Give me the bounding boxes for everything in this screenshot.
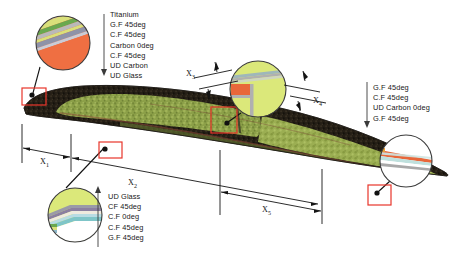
stack-item: C.F 0deg <box>108 212 144 222</box>
lower-surface-callout-circle <box>48 188 102 242</box>
dimension-x5-label: X5 <box>262 205 271 216</box>
stack-item: G.F 45deg <box>110 20 154 30</box>
trailing-edge-stack-labels: G.F 45deg C.F 45deg UD Carbon 0deg G.F 4… <box>373 83 430 124</box>
stack-item: C.F 45deg <box>110 51 154 61</box>
blade-illustration <box>0 0 466 263</box>
dimension-x4-label: X4 <box>313 96 322 107</box>
trailing-edge-callout-circle <box>380 135 432 187</box>
marker-box-trailing-edge <box>368 185 391 205</box>
stack-item: C.F 45deg <box>110 30 154 40</box>
dimension-x1-label: X1 <box>40 157 49 168</box>
stack-item: UD Glass <box>108 192 144 202</box>
stack-item: G.F 45deg <box>373 114 430 124</box>
stack-item: C.F 45deg <box>373 93 430 103</box>
stack-item: C.F 45deg <box>108 223 144 233</box>
stack-item: Titanium <box>110 10 154 20</box>
stack-item: UD Carbon 0deg <box>373 103 430 113</box>
stack-item: G.F 45deg <box>108 233 144 243</box>
stack-item: G.F 45deg <box>373 83 430 93</box>
dimension-x3-label: X3 <box>186 69 195 80</box>
leading-edge-stack-labels: Titanium G.F 45deg C.F 45deg Carbon 0deg… <box>110 10 154 81</box>
diagram-canvas: Titanium G.F 45deg C.F 45deg Carbon 0deg… <box>0 0 466 263</box>
stack-item: UD Carbon <box>110 61 154 71</box>
leading-edge-callout-circle <box>21 0 111 91</box>
stack-item: UD Glass <box>110 71 154 81</box>
stack-item: Carbon 0deg <box>110 41 154 51</box>
lower-surface-stack-labels: UD Glass CF 45deg C.F 0deg C.F 45deg G.F… <box>108 192 144 243</box>
dimension-x2-label: X2 <box>128 178 137 189</box>
stack-item: CF 45deg <box>108 202 144 212</box>
